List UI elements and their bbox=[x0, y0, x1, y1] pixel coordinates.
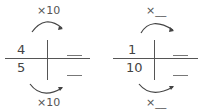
denominator: 5 bbox=[17, 61, 25, 74]
divider-line bbox=[154, 40, 155, 80]
denominator-blank[interactable] bbox=[173, 75, 188, 76]
bottom-multiplier-label: ×10 bbox=[37, 97, 60, 108]
right-fraction-diagram: ×__ 1 10 ×__ bbox=[101, 0, 202, 109]
top-multiplier-label: ×__ bbox=[146, 5, 166, 16]
bottom-multiplier-label: ×__ bbox=[146, 97, 166, 108]
fraction-bar bbox=[113, 58, 198, 59]
numerator: 1 bbox=[128, 43, 136, 56]
left-fraction-diagram: ×10 4 5 ×10 bbox=[0, 0, 101, 109]
numerator-blank[interactable] bbox=[67, 55, 82, 56]
numerator: 4 bbox=[17, 43, 25, 56]
numerator-blank[interactable] bbox=[173, 55, 188, 56]
denominator-blank[interactable] bbox=[67, 75, 82, 76]
top-multiplier-label: ×10 bbox=[37, 5, 60, 16]
divider-line bbox=[47, 40, 48, 80]
denominator: 10 bbox=[126, 61, 143, 74]
